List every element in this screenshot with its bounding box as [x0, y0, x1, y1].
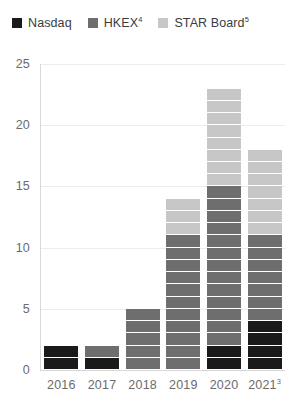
bar-stack [126, 309, 160, 370]
stacked-bar-chart: NasdaqHKEX4STAR Board5 0510152025 201620… [0, 0, 295, 410]
y-axis-tick-label: 10 [0, 241, 30, 255]
bar-segment [166, 321, 200, 333]
bar-segment [248, 186, 282, 198]
bar-segment [207, 284, 241, 296]
bar-segment [207, 248, 241, 260]
bar-stack [248, 150, 282, 370]
legend-footnote-marker: 5 [245, 15, 249, 24]
x-axis-footnote-marker: 3 [277, 377, 281, 386]
x-axis: 2016201720182019202020213 [41, 378, 285, 402]
bar-segment [85, 346, 119, 358]
bar-segment [166, 358, 200, 370]
legend-item-label: Nasdaq [28, 16, 72, 30]
bar-segment [248, 284, 282, 296]
bar-segment [126, 333, 160, 345]
legend-item-label: STAR Board5 [174, 16, 249, 30]
bar-segment [207, 272, 241, 284]
bar-segment [248, 260, 282, 272]
bar-stack [44, 346, 78, 370]
bar-segment [248, 211, 282, 223]
bar-segment [248, 272, 282, 284]
bar-segment [207, 186, 241, 198]
x-axis-tick-label: 2020 [202, 378, 246, 392]
x-axis-line [40, 370, 285, 371]
bar-segment [207, 297, 241, 309]
bar-segment [207, 101, 241, 113]
bar-segment [126, 346, 160, 358]
bar-segment [126, 309, 160, 321]
bar-stack [166, 199, 200, 370]
bar-segment [166, 297, 200, 309]
bar-segment [248, 223, 282, 235]
bar-segment [207, 138, 241, 150]
bar-segment [248, 333, 282, 345]
bar-segment [207, 358, 241, 370]
bar-segment [44, 346, 78, 358]
legend-item-nasdaq[interactable]: Nasdaq [12, 16, 72, 30]
bar-segment [207, 223, 241, 235]
bar-segment [207, 125, 241, 137]
bar-segment [166, 272, 200, 284]
bar-segment [207, 346, 241, 358]
y-axis-tick-label: 15 [0, 179, 30, 193]
bar-segment [248, 199, 282, 211]
legend-swatch-icon [158, 18, 168, 28]
bar-segment [248, 248, 282, 260]
bar-segment [166, 248, 200, 260]
bar-segment [166, 260, 200, 272]
bar-stack [207, 89, 241, 370]
bar-segment [166, 199, 200, 211]
legend-item-star-board[interactable]: STAR Board5 [158, 16, 249, 30]
bar-segment [166, 211, 200, 223]
bars-container [41, 64, 285, 370]
bar-segment [248, 346, 282, 358]
bar-segment [248, 358, 282, 370]
bar-segment [248, 162, 282, 174]
bar-stack [85, 346, 119, 370]
bar-segment [207, 333, 241, 345]
bar-segment [126, 358, 160, 370]
legend-item-hkex[interactable]: HKEX4 [88, 16, 143, 30]
x-axis-tick-label: 20213 [243, 378, 287, 392]
legend-footnote-marker: 4 [138, 15, 142, 24]
bar-segment [248, 309, 282, 321]
bar-segment [166, 235, 200, 247]
bar-segment [207, 89, 241, 101]
bar-segment [207, 309, 241, 321]
bar-segment [248, 174, 282, 186]
x-axis-tick-label: 2019 [161, 378, 205, 392]
bar-segment [248, 321, 282, 333]
chart-legend: NasdaqHKEX4STAR Board5 [0, 0, 295, 46]
x-axis-tick-label: 2016 [39, 378, 83, 392]
bar-segment [85, 358, 119, 370]
y-axis-tick-label: 5 [0, 302, 30, 316]
bar-segment [166, 284, 200, 296]
bar-segment [207, 321, 241, 333]
y-axis-tick-label: 0 [0, 363, 30, 377]
bar-segment [166, 223, 200, 235]
bar-segment [207, 260, 241, 272]
bar-segment [248, 235, 282, 247]
bar-segment [166, 309, 200, 321]
bar-segment [207, 162, 241, 174]
bar-segment [207, 150, 241, 162]
bar-segment [207, 113, 241, 125]
legend-swatch-icon [88, 18, 98, 28]
bar-segment [166, 346, 200, 358]
bar-segment [166, 333, 200, 345]
legend-swatch-icon [12, 18, 22, 28]
y-axis-tick-label: 20 [0, 118, 30, 132]
bar-segment [44, 358, 78, 370]
x-axis-tick-label: 2018 [121, 378, 165, 392]
y-axis-tick-label: 25 [0, 57, 30, 71]
bar-segment [207, 174, 241, 186]
bar-segment [207, 235, 241, 247]
bar-segment [248, 150, 282, 162]
x-axis-tick-label: 2017 [80, 378, 124, 392]
bar-segment [207, 211, 241, 223]
bar-segment [126, 321, 160, 333]
legend-item-label: HKEX4 [104, 16, 143, 30]
bar-segment [248, 297, 282, 309]
bar-segment [207, 199, 241, 211]
